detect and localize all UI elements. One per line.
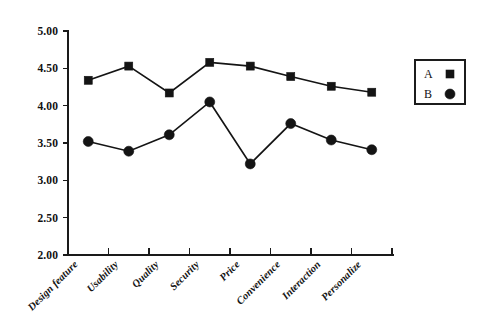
data-point-marker [246, 62, 254, 70]
chart-legend: AB [415, 60, 465, 104]
data-point-marker [125, 62, 133, 70]
data-point-marker [286, 119, 296, 129]
data-point-marker [206, 58, 214, 66]
data-point-marker [326, 135, 336, 145]
legend-marker-b [445, 89, 455, 99]
y-tick-label: 3.50 [37, 137, 58, 149]
chart-background [0, 0, 489, 325]
data-point-marker [83, 137, 93, 147]
data-point-marker [124, 146, 134, 156]
y-tick-label: 5.00 [37, 25, 58, 37]
chart-canvas: 5.004.504.003.503.002.502.00 Design feat… [0, 0, 489, 325]
y-tick-label: 3.00 [37, 174, 58, 186]
legend-box [415, 60, 465, 104]
data-point-marker [367, 145, 377, 155]
y-tick-label: 4.00 [37, 100, 58, 112]
y-tick-label: 2.50 [37, 212, 58, 224]
line-chart: 5.004.504.003.503.002.502.00 Design feat… [0, 0, 489, 325]
data-point-marker [165, 89, 173, 97]
legend-marker-a [446, 70, 454, 78]
data-point-marker [245, 159, 255, 169]
data-point-marker [368, 88, 376, 96]
legend-label-a: A [424, 67, 433, 81]
data-point-marker [287, 73, 295, 81]
data-point-marker [205, 97, 215, 107]
y-tick-label: 2.00 [37, 249, 58, 261]
data-point-marker [164, 130, 174, 140]
legend-label-b: B [424, 87, 432, 101]
data-point-marker [327, 82, 335, 90]
data-point-marker [84, 76, 92, 84]
y-tick-label: 4.50 [37, 62, 58, 74]
